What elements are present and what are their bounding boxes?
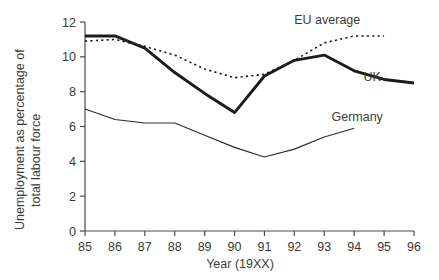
y-tick-label-2: 2 (69, 190, 76, 204)
chart-figure: Unemployment as percentage of total labo… (0, 0, 439, 280)
x-tick-label-90: 90 (228, 240, 242, 254)
x-tick-label-92: 92 (287, 240, 301, 254)
x-tick-label-93: 93 (317, 240, 331, 254)
y-axis-title-line1: Unemployment as percentage of (13, 49, 27, 230)
y-tick-label-6: 6 (69, 120, 76, 134)
x-axis-ticks: 858687888990919293949596 (78, 231, 421, 254)
y-tick-label-4: 4 (69, 155, 76, 169)
series-layer (85, 36, 414, 157)
x-tick-label-85: 85 (78, 240, 92, 254)
series-annotations: EU averageUKGermany (294, 13, 383, 125)
y-axis-title: Unemployment as percentage of total labo… (13, 49, 43, 230)
y-tick-label-12: 12 (62, 16, 76, 30)
x-tick-label-91: 91 (258, 240, 272, 254)
x-tick-label-94: 94 (347, 240, 361, 254)
x-tick-label-89: 89 (198, 240, 212, 254)
y-axis-title-line2: total labour force (29, 114, 43, 207)
germany-label: Germany (331, 110, 383, 124)
axes (85, 22, 414, 231)
x-tick-label-88: 88 (168, 240, 182, 254)
x-tick-label-96: 96 (407, 240, 421, 254)
y-tick-label-8: 8 (69, 85, 76, 99)
series-line-germany (85, 109, 354, 157)
x-tick-label-87: 87 (138, 240, 152, 254)
x-tick-label-86: 86 (108, 240, 122, 254)
x-tick-label-95: 95 (377, 240, 391, 254)
line-chart-canvas: Unemployment as percentage of total labo… (0, 0, 439, 280)
x-axis-title: Year (19XX) (206, 257, 274, 271)
y-tick-label-0: 0 (69, 225, 76, 239)
y-tick-label-10: 10 (62, 50, 76, 64)
uk-label: UK (363, 70, 381, 84)
y-axis-ticks: 024681012 (62, 16, 85, 239)
eu-average-label: EU average (294, 13, 360, 27)
